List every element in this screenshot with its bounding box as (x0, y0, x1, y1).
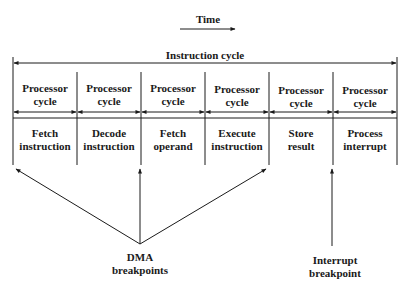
cycle-line2: cycle (278, 97, 324, 110)
cycle-line1: Processor (342, 84, 388, 97)
dma-line1: DMA (112, 251, 168, 264)
cycle-line2: cycle (150, 95, 196, 108)
step-line1: Execute (211, 127, 262, 140)
dma-arrow (16, 169, 140, 244)
processor-cycle-label: Processorcycle (278, 84, 324, 109)
dma-line2: breakpoints (112, 264, 168, 277)
processor-cycle-label: Processorcycle (86, 82, 132, 107)
cycle-line1: Processor (22, 82, 68, 95)
step-line2: operand (153, 140, 192, 153)
step-line2: interrupt (343, 140, 386, 153)
step-label-execute-instruction: Executeinstruction (211, 127, 262, 152)
step-line1: Store (288, 127, 315, 140)
step-line2: instruction (211, 140, 262, 153)
instruction-cycle-text: Instruction cycle (166, 49, 245, 62)
cycle-line2: cycle (22, 95, 68, 108)
processor-cycle-label: Processorcycle (342, 84, 388, 109)
cycle-line2: cycle (214, 96, 260, 109)
step-line2: result (288, 140, 315, 153)
dma-breakpoints-label: DMAbreakpoints (112, 251, 168, 276)
processor-cycle-label: Processorcycle (150, 82, 196, 107)
interrupt-breakpoint-label: Interruptbreakpoint (309, 254, 361, 279)
step-label-fetch-instruction: Fetchinstruction (19, 127, 70, 152)
cycle-line1: Processor (86, 82, 132, 95)
step-line1: Decode (83, 127, 134, 140)
cycle-line2: cycle (86, 95, 132, 108)
step-line1: Fetch (19, 127, 70, 140)
step-line1: Process (343, 127, 386, 140)
step-label-decode-instruction: Decodeinstruction (83, 127, 134, 152)
interrupt-line2: breakpoint (309, 267, 361, 280)
step-line2: instruction (19, 140, 70, 153)
step-label-process-interrupt: Processinterrupt (343, 127, 386, 152)
cycle-line1: Processor (278, 84, 324, 97)
cycle-line2: cycle (342, 97, 388, 110)
interrupt-line1: Interrupt (309, 254, 361, 267)
step-line1: Fetch (153, 127, 192, 140)
processor-cycle-label: Processorcycle (22, 82, 68, 107)
time-label: Time (196, 13, 220, 26)
step-line2: instruction (83, 140, 134, 153)
processor-cycle-label: Processorcycle (214, 83, 260, 108)
cycle-line1: Processor (150, 82, 196, 95)
step-label-store-result: Storeresult (288, 127, 315, 152)
time-text: Time (196, 13, 220, 26)
dma-arrow (140, 169, 266, 244)
cycle-line1: Processor (214, 83, 260, 96)
instruction-cycle-label: Instruction cycle (166, 49, 245, 62)
step-label-fetch-operand: Fetchoperand (153, 127, 192, 152)
